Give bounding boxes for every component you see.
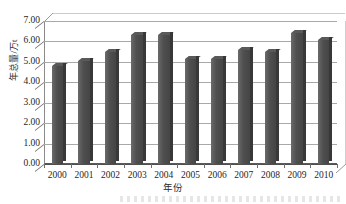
bar-series	[44, 21, 337, 164]
x-axis-tick-label: 2009	[284, 170, 311, 181]
bar-slot	[105, 21, 117, 164]
y-axis-tick-label: 4.00	[0, 77, 40, 87]
bar-slot	[265, 21, 277, 164]
x-axis-tick-mark	[257, 164, 258, 168]
plot-depth-right-edge	[336, 21, 346, 173]
x-axis-tick-mark	[97, 164, 98, 168]
bar[interactable]	[158, 35, 170, 164]
bar[interactable]	[105, 52, 117, 164]
bar[interactable]	[265, 52, 277, 164]
y-axis-tick-label: 1.00	[0, 139, 40, 149]
bar-side-face	[276, 49, 279, 161]
bar-side-face	[170, 32, 173, 161]
y-axis-tick-label: 7.00	[0, 16, 40, 26]
x-axis-tick-label: 2003	[124, 170, 151, 181]
bar-slot	[185, 21, 197, 164]
y-axis-tick-label: 6.00	[0, 36, 40, 46]
x-axis-tick-mark	[284, 164, 285, 168]
bar-side-face	[196, 56, 199, 161]
bar-slot	[78, 21, 90, 164]
x-axis-tick-mark	[204, 164, 205, 168]
x-axis-tick-label: 2002	[97, 170, 124, 181]
bar-side-face	[116, 49, 119, 161]
x-axis-title: 年份	[0, 183, 345, 194]
x-axis-line	[44, 164, 337, 165]
y-axis-tick-labels: 0.001.002.003.004.005.006.007.00	[0, 0, 40, 204]
bar-slot	[238, 21, 250, 164]
x-axis-tick-mark	[230, 164, 231, 168]
x-axis-tick-label: 2005	[177, 170, 204, 181]
x-axis-tick-label: 2010	[310, 170, 337, 181]
x-axis-tick-label: 2001	[71, 170, 98, 181]
y-axis-tick-label: 0.00	[0, 159, 40, 169]
bar[interactable]	[318, 40, 330, 164]
x-axis-tick-mark	[177, 164, 178, 168]
bar-side-face	[143, 32, 146, 161]
bar-slot	[291, 21, 303, 164]
bar-side-face	[329, 37, 332, 161]
bar[interactable]	[131, 35, 143, 164]
x-axis-tick-mark	[310, 164, 311, 168]
bar-slot	[131, 21, 143, 164]
bar-slot	[158, 21, 170, 164]
x-axis-tick-mark	[151, 164, 152, 168]
bar[interactable]	[52, 66, 64, 164]
x-axis-tick-mark	[337, 164, 338, 168]
y-axis-tick-label: 5.00	[0, 57, 40, 67]
x-axis-tick-label: 2008	[257, 170, 284, 181]
bar-slot	[52, 21, 64, 164]
bar[interactable]	[78, 61, 90, 164]
bar[interactable]	[238, 50, 250, 164]
x-axis-tick-mark	[44, 164, 45, 168]
bar[interactable]	[211, 59, 223, 164]
bar-side-face	[90, 58, 93, 161]
x-axis-tick-label: 2007	[230, 170, 257, 181]
bar-side-face	[223, 56, 226, 161]
x-axis-tick-mark	[71, 164, 72, 168]
x-axis-tick-labels: 2000200120022003200420052006200720082009…	[44, 170, 345, 184]
x-axis-tick-label: 2000	[44, 170, 71, 181]
y-axis-tick-label: 3.00	[0, 98, 40, 108]
page-footer-artifact	[120, 196, 340, 202]
x-axis-tick-label: 2006	[204, 170, 231, 181]
y-axis-tick-label: 2.00	[0, 118, 40, 128]
bar[interactable]	[291, 33, 303, 164]
bar-side-face	[303, 30, 306, 161]
plot-area	[44, 21, 337, 164]
bar-side-face	[250, 47, 253, 161]
x-axis-tick-label: 2004	[151, 170, 178, 181]
bar[interactable]	[185, 59, 197, 164]
bar-slot	[318, 21, 330, 164]
x-axis-tick-mark	[124, 164, 125, 168]
bar-slot	[211, 21, 223, 164]
bar-side-face	[63, 63, 66, 161]
